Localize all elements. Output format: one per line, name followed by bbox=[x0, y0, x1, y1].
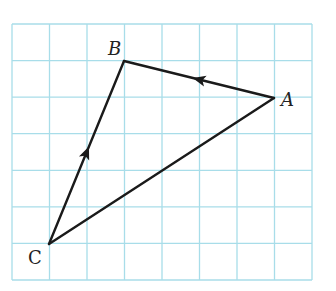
vector-triangle-diagram: A B C bbox=[0, 0, 336, 291]
grid bbox=[12, 24, 312, 280]
arrowheads bbox=[79, 76, 207, 161]
vertex-labels: A B C bbox=[28, 38, 294, 268]
vertex-label-a: A bbox=[279, 89, 294, 110]
vertex-label-c: C bbox=[28, 247, 42, 268]
vertex-label-b: B bbox=[107, 38, 121, 59]
